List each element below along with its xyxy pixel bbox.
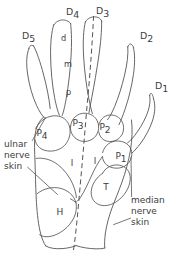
label-digit-d5: D5 bbox=[22, 30, 35, 44]
label-segment-distal: d bbox=[61, 33, 66, 43]
palmar-pads-group bbox=[35, 113, 132, 237]
label-region-p3: P3 bbox=[72, 118, 83, 131]
digit-d3-outline-medial bbox=[89, 21, 102, 113]
annotation-ulnar-nerve-skin: ulnar nerve skin bbox=[4, 139, 30, 171]
annotation-median-nerve-skin: median nerve skin bbox=[131, 195, 165, 227]
digit-d5-outline-medial bbox=[34, 46, 51, 109]
other-region-labels-group: T H I I bbox=[57, 156, 110, 217]
digit-d1-outline-medial bbox=[132, 98, 155, 153]
digit-d4-outline bbox=[51, 25, 60, 116]
digit-d2-tip-mark bbox=[128, 44, 134, 47]
annotation-ulnar-line-2: nerve bbox=[4, 150, 30, 160]
digit-d1-outline bbox=[128, 95, 150, 142]
annotation-ulnar-line-1: ulnar bbox=[4, 139, 27, 149]
label-digit-d2: D2 bbox=[140, 30, 153, 44]
palmar-pad-labels-group: P4 P3 P2 P1 bbox=[36, 118, 126, 164]
annotation-median-line-3: skin bbox=[131, 217, 149, 227]
label-region-interosseous-radial: I bbox=[94, 156, 97, 166]
digit-d5-outline bbox=[27, 49, 45, 118]
hand-diagram-canvas: D5 D4 D3 D2 D1 d m p P4 P3 P2 P1 T H I I bbox=[0, 0, 181, 257]
digit-d5-tip-mark bbox=[29, 45, 34, 48]
hand-outline-group bbox=[35, 117, 133, 249]
label-segment-middle: m bbox=[64, 59, 72, 69]
median-leader-upper bbox=[131, 157, 132, 196]
label-digit-d3: D3 bbox=[96, 5, 109, 19]
label-region-hypothenar: H bbox=[57, 207, 64, 217]
wrist-ulnar-outline bbox=[46, 246, 76, 249]
interosseous-lines-group bbox=[36, 157, 102, 204]
hand-anatomy-figure: D5 D4 D3 D2 D1 d m p P4 P3 P2 P1 T H I I bbox=[0, 0, 181, 257]
region-thenar-outline bbox=[91, 165, 130, 206]
label-segment-proximal: p bbox=[66, 87, 71, 97]
annotation-median-line-1: median bbox=[131, 195, 165, 205]
label-region-p2: P2 bbox=[99, 122, 110, 135]
annotation-median-line-2: nerve bbox=[131, 206, 157, 216]
label-region-p1: P1 bbox=[115, 151, 126, 164]
annotation-ulnar-line-3: skin bbox=[4, 161, 22, 171]
label-digit-d4: D4 bbox=[66, 6, 79, 20]
median-leader-lower bbox=[114, 218, 131, 224]
interosseous-radial-line bbox=[77, 157, 103, 202]
wrist-radial-outline bbox=[76, 246, 105, 249]
label-region-thenar: T bbox=[102, 182, 109, 192]
digit-d4-tip-mark bbox=[54, 20, 71, 25]
label-region-interosseous-ulnar: I bbox=[71, 158, 74, 168]
label-digit-d1: D1 bbox=[155, 80, 168, 94]
label-region-p4: P4 bbox=[36, 128, 47, 141]
segment-labels-group: d m p bbox=[61, 33, 72, 97]
